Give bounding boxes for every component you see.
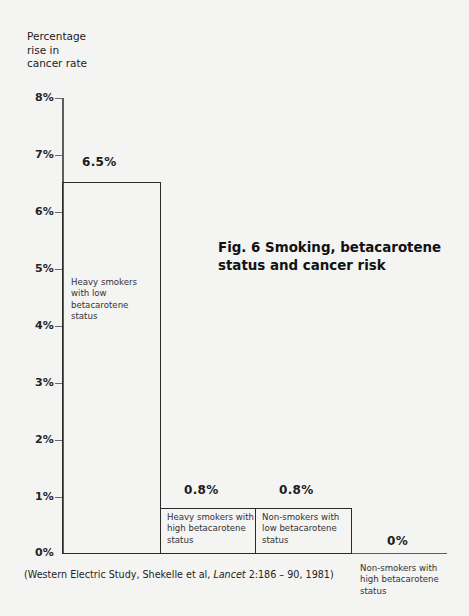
bar-value-3: 0.8% <box>279 483 313 497</box>
bar-label-1: Heavy smokers with low betacarotene stat… <box>71 277 153 323</box>
y-tick-mark-7 <box>55 155 62 156</box>
source-prefix: (Western Electric Study, Shekelle et al, <box>24 569 213 580</box>
bar-value-4: 0% <box>387 534 408 548</box>
y-tick-mark-2 <box>55 440 62 441</box>
bar-heavy-smokers-low-betacarotene <box>62 182 161 554</box>
y-tick-mark-5 <box>55 269 62 270</box>
figure-title-line-1: Fig. 6 Smoking, betacarotene <box>218 240 441 255</box>
y-tick-label-0: 0% <box>20 546 54 559</box>
source-suffix: 2:186 – 90, 1981) <box>246 569 334 580</box>
figure-title-line-2: status and cancer risk <box>218 258 386 273</box>
figure-chart-smoking-betacarotene: Percentage rise in cancer rate 8% 7% 6% … <box>0 0 469 616</box>
bar-value-1: 6.5% <box>82 155 116 169</box>
source-journal-name: Lancet <box>213 569 245 580</box>
bar-label-3: Non-smokers with low betacarotene status <box>262 512 352 546</box>
bar-value-2: 0.8% <box>184 483 218 497</box>
y-tick-label-2: 2% <box>20 433 54 446</box>
figure-title: Fig. 6 Smoking, betacarotenestatus and c… <box>218 239 448 275</box>
y-tick-mark-4 <box>55 326 62 327</box>
y-tick-label-3: 3% <box>20 376 54 389</box>
y-tick-label-7: 7% <box>20 148 54 161</box>
y-axis-title: Percentage rise in cancer rate <box>27 30 147 71</box>
bar-label-2: Heavy smokers with high betacarotene sta… <box>167 512 255 546</box>
y-tick-mark-8 <box>55 98 62 99</box>
y-tick-label-8: 8% <box>20 91 54 104</box>
y-tick-label-4: 4% <box>20 319 54 332</box>
y-tick-mark-3 <box>55 383 62 384</box>
y-tick-label-6: 6% <box>20 205 54 218</box>
source-citation: (Western Electric Study, Shekelle et al,… <box>24 569 334 580</box>
y-tick-label-5: 5% <box>20 262 54 275</box>
y-tick-mark-6 <box>55 212 62 213</box>
y-tick-label-1: 1% <box>20 490 54 503</box>
y-tick-mark-1 <box>55 497 62 498</box>
bar-label-4: Non-smokers with high betacarotene statu… <box>360 563 460 597</box>
